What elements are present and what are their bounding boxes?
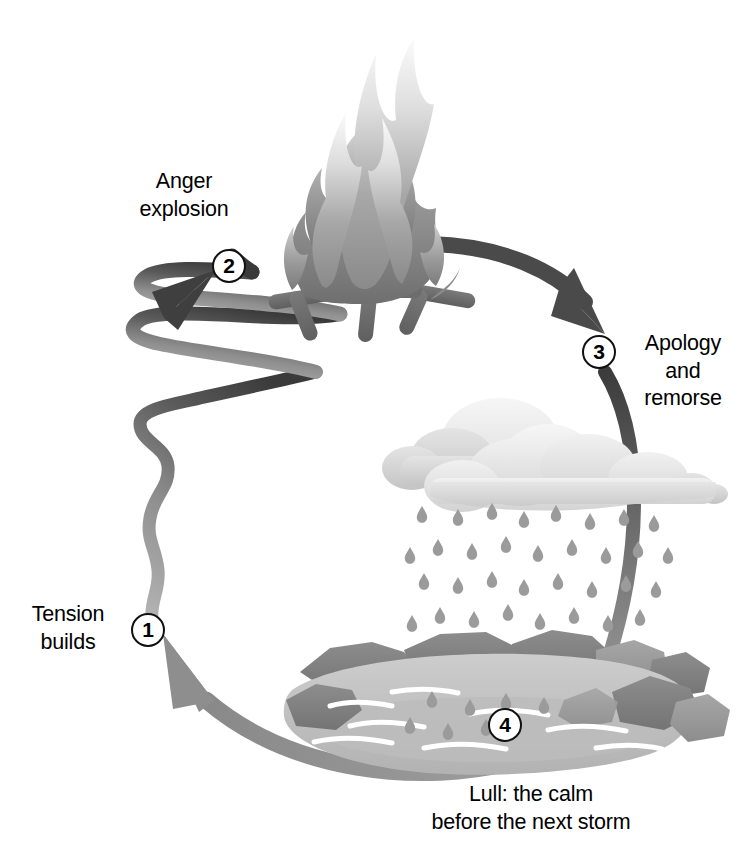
stage-marker-2[interactable]: 2 xyxy=(212,249,246,283)
stage-label-tension-builds: Tension builds xyxy=(8,601,128,656)
stage-marker-4[interactable]: 4 xyxy=(488,708,522,742)
stage-label-lull: Lull: the calm before the next storm xyxy=(366,781,696,836)
stage-marker-3[interactable]: 3 xyxy=(582,335,616,369)
campfire-icon xyxy=(267,38,476,343)
explosion-to-apology-arc-icon xyxy=(430,244,605,334)
calm-pond-icon xyxy=(284,630,730,775)
stage-label-apology-and-remorse: Apology and remorse xyxy=(612,330,754,413)
diagram-artwork xyxy=(0,0,754,845)
stage-marker-1[interactable]: 1 xyxy=(131,613,165,647)
stage-label-anger-explosion: Anger explosion xyxy=(96,168,272,223)
anger-cycle-diagram: Anger explosion Apology and remorse Tens… xyxy=(0,0,754,845)
